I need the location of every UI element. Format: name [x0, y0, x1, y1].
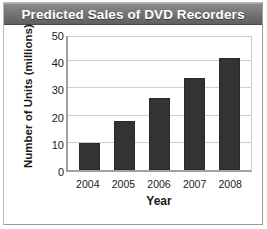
- plot-area: [66, 36, 252, 172]
- chart-title-bar: Predicted Sales of DVD Recorders: [4, 3, 262, 25]
- y-tick-label: 40: [52, 57, 64, 69]
- y-axis-label: Number of Units (millions): [22, 28, 34, 168]
- plot-wrapper: [66, 36, 252, 172]
- bar-2004: [79, 143, 100, 170]
- x-tick-label: 2007: [178, 178, 212, 190]
- bar-2006: [149, 98, 170, 170]
- y-tick-label: 50: [52, 30, 64, 42]
- x-tick-label: 2006: [142, 178, 176, 190]
- x-axis-label: Year: [66, 194, 252, 208]
- bar-2005: [114, 121, 135, 170]
- x-tick-label: 2008: [213, 178, 247, 190]
- y-axis-tick-labels: 01020304050: [38, 36, 64, 172]
- bar-2008: [219, 58, 240, 170]
- y-tick-label: 20: [52, 112, 64, 124]
- chart-title: Predicted Sales of DVD Recorders: [21, 7, 244, 22]
- y-tick-label: 30: [52, 84, 64, 96]
- bar-series: [68, 37, 251, 170]
- x-tick-label: 2005: [106, 178, 140, 190]
- y-tick-label: 0: [58, 166, 64, 178]
- x-axis-tick-labels: 20042005200620072008: [66, 178, 252, 190]
- x-tick-label: 2004: [71, 178, 105, 190]
- y-tick-label: 10: [52, 139, 64, 151]
- chart-figure: Predicted Sales of DVD Recorders Number …: [0, 0, 267, 229]
- bar-2007: [184, 78, 205, 170]
